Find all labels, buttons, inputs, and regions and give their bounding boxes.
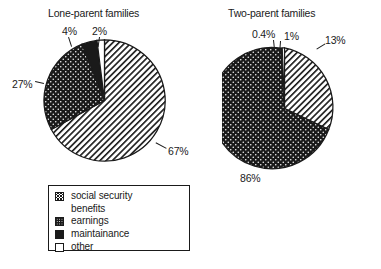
legend-item-maintainance: maintainance [55, 228, 189, 241]
chart-title-left: Lone-parent families [48, 7, 139, 19]
legend-label-earnings: earnings [71, 215, 109, 227]
leader-line-right-maintainance [273, 40, 275, 47]
pie-svg-left [42, 38, 167, 163]
chart-title-right: Two-parent families [228, 7, 315, 19]
pie-label-right-earnings: 86% [240, 172, 260, 184]
legend-label-other: other [71, 241, 93, 253]
legend-item-social-security-benefits: social security [55, 190, 189, 203]
dotted-icon [55, 217, 64, 226]
solid-icon [55, 230, 64, 239]
figure-pie-charts: Lone-parent families [0, 0, 381, 269]
pie-label-right-other: 1% [284, 30, 299, 42]
legend-item-earnings: earnings [55, 215, 189, 228]
pie-label-left-other: 2% [92, 25, 107, 37]
legend-label-benefits: benefits [71, 203, 189, 215]
legend: social security benefits earnings mainta… [48, 185, 190, 251]
pie-label-right-social-security-benefits: 13% [325, 34, 345, 46]
pie-label-left-maintainance: 4% [62, 25, 77, 37]
pie-label-right-maintainance: 0.4% [252, 28, 275, 40]
pie-svg-right [222, 46, 347, 171]
empty-icon [55, 243, 64, 252]
legend-label-maintainance: maintainance [71, 228, 129, 240]
pie-chart-two-parent [222, 46, 347, 171]
pie-label-left-social-security-benefits: 67% [168, 145, 188, 157]
legend-label-social-security: social security [71, 190, 132, 202]
pie-label-left-earnings: 27% [12, 78, 32, 90]
crosshatch-icon [55, 192, 64, 201]
pie-chart-lone-parent [42, 38, 167, 163]
legend-item-other: other [55, 241, 189, 254]
